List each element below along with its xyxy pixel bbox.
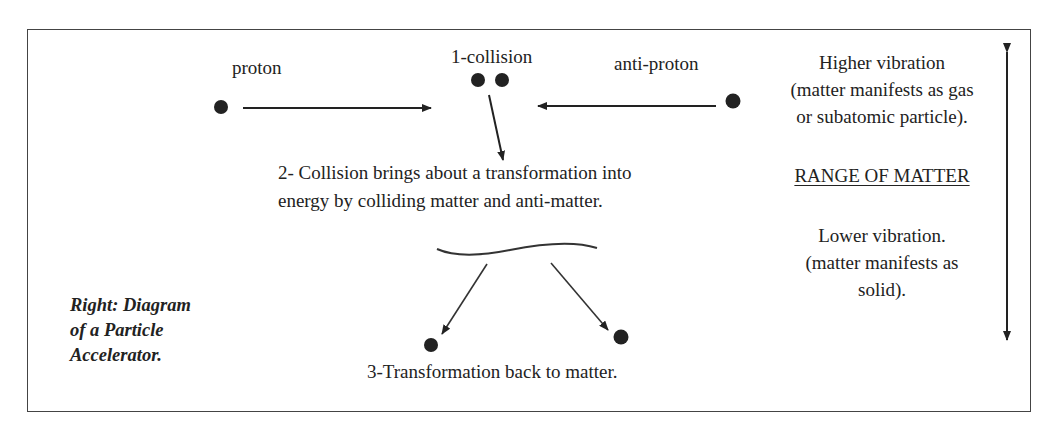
- higher-vibration-line3: or subatomic particle).: [767, 104, 997, 129]
- step2-text-line1: 2- Collision brings about a transformati…: [278, 160, 632, 185]
- proton-label: proton: [232, 55, 282, 80]
- collision-particle-icon: [495, 73, 509, 87]
- transform-arrow-right-icon: [551, 263, 608, 330]
- energy-wave-icon: [437, 244, 597, 255]
- lower-vibration-line1: Lower vibration.: [767, 223, 997, 248]
- caption-line3: Accelerator.: [70, 343, 162, 368]
- higher-vibration-line2: (matter manifests as gas: [767, 77, 997, 102]
- range-of-matter-heading: RANGE OF MATTER: [767, 163, 997, 188]
- step2-text-line2: energy by colliding matter and anti-matt…: [278, 188, 603, 213]
- transform-arrow-left-icon: [442, 264, 487, 334]
- lower-vibration-line3: solid).: [767, 277, 997, 302]
- result-particle-icon: [614, 330, 629, 345]
- proton-particle-icon: [214, 100, 228, 114]
- caption-line1: Right: Diagram: [70, 293, 191, 318]
- caption-line2: of a Particle: [70, 318, 164, 343]
- collision-particle-icon: [471, 73, 485, 87]
- collision-arrow-icon: [489, 95, 503, 160]
- lower-vibration-line2: (matter manifests as: [767, 250, 997, 275]
- higher-vibration-line1: Higher vibration: [767, 50, 997, 75]
- anti-proton-label: anti-proton: [614, 51, 698, 76]
- collision-label: 1-collision: [451, 44, 532, 69]
- anti-proton-particle-icon: [726, 94, 741, 109]
- step3-text: 3-Transformation back to matter.: [367, 359, 617, 384]
- result-particle-icon: [424, 338, 438, 352]
